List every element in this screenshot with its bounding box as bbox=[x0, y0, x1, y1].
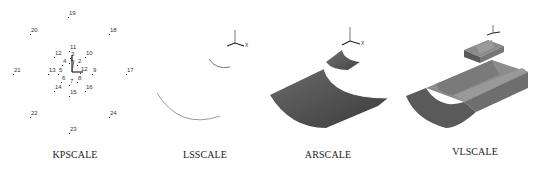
kpscale-caption: KPSCALE bbox=[52, 149, 97, 160]
lsscale-drawing: X bbox=[140, 0, 265, 174]
axis-triad-icon bbox=[487, 25, 500, 35]
scaled-volume bbox=[406, 60, 528, 128]
arscale-drawing: X bbox=[260, 0, 400, 174]
axis-triad-icon: X bbox=[342, 27, 365, 46]
small-curved-area bbox=[326, 50, 360, 70]
axis-triad-icon: X bbox=[227, 30, 249, 48]
small-arc-line bbox=[209, 59, 230, 68]
kpscale-panel: 1920181112103142211351291767814161522242… bbox=[0, 0, 140, 174]
vlscale-caption: VLSCALE bbox=[452, 146, 498, 157]
arscale-panel: X ARSCALE bbox=[260, 0, 400, 174]
vlscale-panel: VLSCALE bbox=[400, 0, 546, 174]
scaled-arc-line bbox=[157, 93, 220, 120]
lsscale-caption: LSSCALE bbox=[183, 149, 227, 160]
scaled-curved-area bbox=[270, 69, 388, 128]
arscale-caption: ARSCALE bbox=[305, 149, 351, 160]
kpscale-axis-triad-icon bbox=[0, 0, 140, 174]
svg-text:X: X bbox=[361, 40, 365, 46]
lsscale-panel: X LSSCALE bbox=[140, 0, 265, 174]
small-volume bbox=[464, 40, 504, 63]
svg-text:X: X bbox=[245, 42, 249, 48]
